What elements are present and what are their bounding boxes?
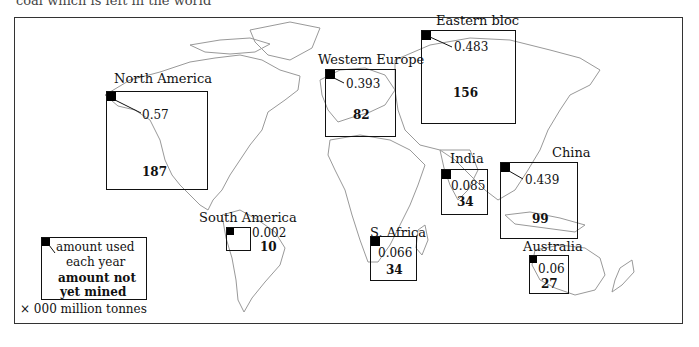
annual-use-square xyxy=(442,170,451,179)
reserves-box: 0.066 34 xyxy=(370,236,417,281)
legend-used-line2: each year xyxy=(66,255,125,269)
annual-use-value: 0.483 xyxy=(454,40,488,54)
reserves-value: 187 xyxy=(142,165,167,179)
annual-use-value: 0.002 xyxy=(252,226,286,240)
annual-use-square xyxy=(227,228,234,235)
region-label: India xyxy=(450,151,484,166)
annual-use-value: 0.439 xyxy=(525,173,559,187)
reserves-value: 10 xyxy=(260,240,277,254)
region-label: China xyxy=(552,145,591,160)
reserves-box: 0.085 34 xyxy=(441,169,488,215)
reserves-value: 156 xyxy=(453,86,478,100)
legend-used-line1: amount used xyxy=(56,240,135,254)
legend-box: amount used each year amount not yet min… xyxy=(41,237,147,300)
reserves-value: 99 xyxy=(532,212,549,226)
region-label: South America xyxy=(199,210,297,225)
reserves-box xyxy=(226,227,251,251)
annual-use-value: 0.066 xyxy=(378,246,412,260)
reserves-value: 82 xyxy=(353,108,370,122)
annual-use-value: 0.085 xyxy=(451,179,485,193)
reserves-box: 0.57 187 xyxy=(106,91,208,190)
legend-reserve-line1: amount not xyxy=(58,271,136,285)
reserves-value: 34 xyxy=(457,195,474,209)
reserves-value: 27 xyxy=(541,277,558,291)
reserves-box: 0.393 82 xyxy=(325,69,396,137)
region-label: Western Europe xyxy=(318,52,424,67)
legend-reserve-line2: yet mined xyxy=(60,285,126,299)
region-label: Eastern bloc xyxy=(436,13,519,28)
reserves-box: 0.483 156 xyxy=(421,30,516,124)
reserves-box: 0.439 99 xyxy=(500,162,578,239)
annual-use-square xyxy=(530,256,537,263)
region-label: Australia xyxy=(523,239,583,254)
reserves-box: 0.06 27 xyxy=(529,255,569,294)
units-note: × 000 million tonnes xyxy=(20,302,147,316)
annual-use-value: 0.57 xyxy=(142,108,169,122)
annual-use-square xyxy=(371,237,380,246)
annual-use-value: 0.393 xyxy=(346,77,380,91)
region-label: North America xyxy=(114,71,212,86)
reserves-value: 34 xyxy=(386,263,403,277)
annual-use-value: 0.06 xyxy=(538,262,565,276)
